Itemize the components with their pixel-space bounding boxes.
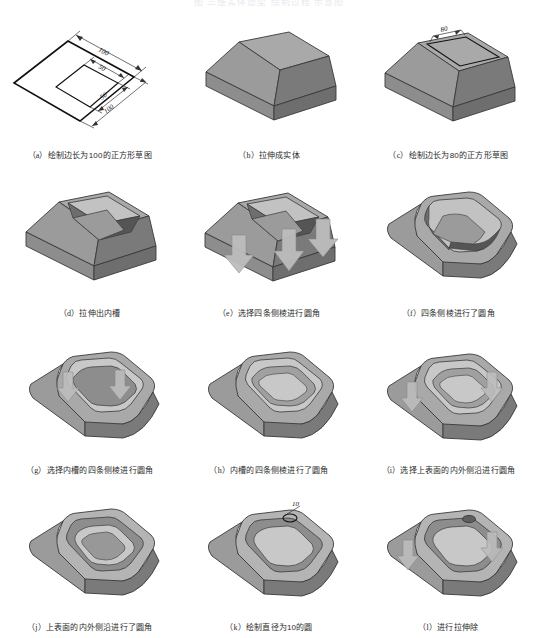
figure-index-d: （d） — [59, 309, 80, 318]
figure-caption-h: （h）内槽的四条侧棱进行了圆角 — [209, 466, 328, 479]
figure-art-b — [179, 9, 358, 151]
figure-index-g: （g） — [26, 466, 47, 475]
frustum-with-top-sketch-icon: 80 — [373, 21, 523, 139]
figure-art-h — [179, 324, 358, 466]
figure-sheet: 图 三维实体造型 绘制过程 示意图 — [0, 0, 538, 638]
figure-caption-text-g: 选择内槽的四条侧棱进行圆角 — [47, 466, 154, 475]
figure-caption-text-j: 上表面的内外侧沿进行了圆角 — [46, 623, 153, 632]
figure-index-f: （f） — [402, 309, 421, 318]
figure-cell-a: 100 50 50 100 （a）绘制边长为100的正方形草图 — [0, 9, 179, 166]
figure-index-j: （j） — [27, 623, 46, 632]
figure-cell-c: 80 （c）绘制边长为80的正方形草图 — [359, 9, 538, 166]
figure-index-i: （i） — [382, 466, 401, 475]
figure-caption-text-c: 绘制边长为80的正方形草图 — [409, 151, 509, 160]
frustum-pocket-icon — [11, 178, 169, 296]
dimension-label-100-bottom: 100 — [102, 103, 116, 116]
figure-art-k: 10 — [179, 481, 358, 623]
figure-art-a: 100 50 50 100 — [0, 9, 179, 151]
figure-caption-b: （b）拉伸成实体 — [238, 151, 300, 164]
figure-art-f — [359, 166, 538, 308]
figure-caption-text-l: 进行拉伸除 — [437, 623, 478, 632]
figure-caption-d: （d）拉伸出内槽 — [59, 309, 121, 322]
figure-cell-h: （h）内槽的四条侧棱进行了圆角 — [179, 324, 358, 481]
extrude-cut-hole-icon — [367, 492, 529, 612]
figure-art-e — [179, 166, 358, 308]
figure-cell-f: （f）四条侧棱进行了圆角 — [359, 166, 538, 323]
pocket-outer-filleted-icon — [369, 178, 527, 296]
solid-frustum-icon — [194, 24, 344, 136]
figure-art-l — [359, 481, 538, 623]
figure-caption-e: （e）选择四条侧棱进行圆角 — [218, 309, 320, 322]
top-rims-filleted-icon — [9, 493, 171, 611]
sketch-circle-on-rim-icon: 10 — [188, 492, 350, 612]
dimension-label-50-top: 50 — [97, 63, 107, 74]
figure-cell-i: （i）选择上表面的内外侧沿进行圆角 — [359, 324, 538, 481]
select-top-rims-icon — [369, 336, 527, 454]
cropped-header-strip: 图 三维实体造型 绘制过程 示意图 — [0, 0, 538, 9]
figure-caption-text-e: 选择四条侧棱进行圆角 — [238, 309, 320, 318]
figure-caption-j: （j）上表面的内外侧沿进行了圆角 — [27, 623, 152, 636]
figure-caption-text-f: 四条侧棱进行了圆角 — [421, 309, 495, 318]
figure-cell-d: （d）拉伸出内槽 — [0, 166, 179, 323]
figure-caption-i: （i）选择上表面的内外侧沿进行圆角 — [382, 466, 516, 479]
figure-caption-text-h: 内槽的四条侧棱进行了圆角 — [230, 466, 328, 475]
figure-art-c: 80 — [359, 9, 538, 151]
dimension-label-80: 80 — [440, 25, 449, 34]
figure-cell-b: （b）拉伸成实体 — [179, 9, 358, 166]
figure-caption-k: （k）绘制直径为10的圆 — [225, 623, 312, 636]
figure-index-k: （k） — [225, 623, 246, 632]
figure-cell-l: （l）进行拉伸除 — [359, 481, 538, 638]
figure-caption-g: （g）选择内槽的四条侧棱进行圆角 — [26, 466, 153, 479]
pocket-select-outer-edges-icon — [188, 177, 350, 297]
figure-caption-f: （f）四条侧棱进行了圆角 — [402, 309, 495, 322]
figure-index-a: （a） — [28, 151, 48, 160]
figure-index-c: （c） — [388, 151, 408, 160]
figure-caption-text-b: 拉伸成实体 — [259, 151, 300, 160]
sketch-square-dimensioned-icon: 100 50 50 100 — [6, 21, 174, 139]
figure-caption-text-i: 选择上表面的内外侧沿进行圆角 — [400, 466, 515, 475]
header-faint-text: 图 三维实体造型 绘制过程 示意图 — [194, 0, 345, 8]
figure-grid: 100 50 50 100 （a）绘制边长为100的正方形草图 — [0, 9, 538, 638]
figure-art-d — [0, 166, 179, 308]
figure-index-l: （l） — [418, 623, 437, 632]
select-inner-edges-icon — [11, 336, 169, 454]
figure-cell-e: （e）选择四条侧棱进行圆角 — [179, 166, 358, 323]
figure-caption-c: （c）绘制边长为80的正方形草图 — [388, 151, 508, 164]
dimension-label-100-top: 100 — [97, 46, 110, 58]
dimension-label-10: 10 — [292, 500, 300, 508]
figure-index-h: （h） — [209, 466, 230, 475]
figure-caption-text-k: 绘制直径为10的圆 — [246, 623, 313, 632]
inner-filleted-icon — [190, 336, 348, 454]
figure-index-e: （e） — [218, 309, 238, 318]
figure-index-b: （b） — [238, 151, 259, 160]
cut-hole — [463, 515, 476, 522]
figure-caption-l: （l）进行拉伸除 — [418, 623, 478, 636]
figure-caption-text-d: 拉伸出内槽 — [79, 309, 120, 318]
figure-art-j — [0, 481, 179, 623]
figure-art-g — [0, 324, 179, 466]
figure-cell-k: 10 （k）绘制直径为10的圆 — [179, 481, 358, 638]
figure-cell-j: （j）上表面的内外侧沿进行了圆角 — [0, 481, 179, 638]
figure-caption-text-a: 绘制边长为100的正方形草图 — [48, 151, 152, 160]
figure-art-i — [359, 324, 538, 466]
figure-cell-g: （g）选择内槽的四条侧棱进行圆角 — [0, 324, 179, 481]
figure-caption-a: （a）绘制边长为100的正方形草图 — [28, 151, 152, 164]
